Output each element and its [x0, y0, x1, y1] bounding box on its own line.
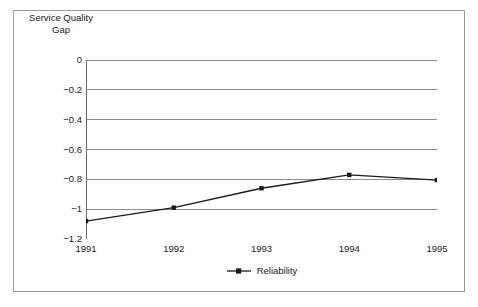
line-chart-svg [86, 60, 437, 239]
y-axis-title: Service Quality Gap [18, 12, 104, 35]
y-tick-label: −0.2 [42, 85, 82, 95]
plot-area [86, 60, 437, 239]
gridlines [86, 60, 437, 239]
x-tick-label: 1991 [61, 243, 111, 255]
legend-item-reliability: Reliability [226, 265, 298, 277]
x-tick-label: 1994 [324, 243, 374, 255]
legend-label-reliability: Reliability [257, 265, 298, 277]
y-tick-label: 0 [42, 55, 82, 65]
y-tick-label: −0.6 [42, 145, 82, 155]
y-tick-label: −0.8 [42, 174, 82, 184]
data-series-reliability [86, 173, 437, 224]
x-tick-label: 1992 [149, 243, 199, 255]
x-tick-label: 1995 [412, 243, 462, 255]
chart-figure: Service Quality Gap 0−0.2−0.4−0.6−0.8−1−… [0, 0, 478, 307]
y-tick-label: −1 [42, 204, 82, 214]
chart-legend: Reliability [86, 263, 437, 279]
x-tick-label: 1993 [237, 243, 287, 255]
y-tick-label: −0.4 [42, 115, 82, 125]
legend-line-marker-icon [226, 266, 252, 276]
y-axis-tick-labels: 0−0.2−0.4−0.6−0.8−1−1.2 [38, 60, 82, 239]
x-axis-tick-labels: 19911992199319941995 [86, 243, 437, 257]
